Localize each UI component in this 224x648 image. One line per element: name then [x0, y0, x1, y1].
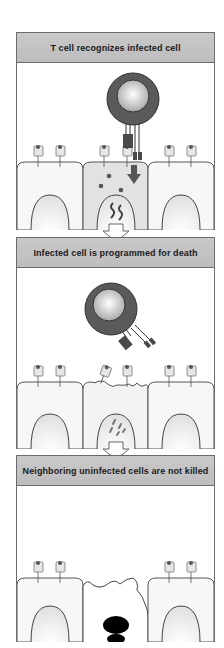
granule [107, 174, 112, 179]
dead-infected-cell [83, 578, 148, 642]
t-cell [107, 73, 159, 160]
panel-outcome: Neighboring uninfected cells are not kil… [16, 455, 215, 642]
panel-recognition: T cell recognizes infected cell [16, 32, 215, 230]
outcome-illustration [17, 486, 214, 642]
recognition-illustration [17, 63, 214, 230]
uninfected-cell-left [17, 578, 83, 642]
uninfected-cell-right [148, 578, 214, 642]
panel-title: T cell recognizes infected cell [17, 33, 214, 63]
programmed-death-illustration [17, 268, 214, 449]
uninfected-cell-right [148, 382, 214, 449]
granule [119, 188, 124, 193]
panel-title: Neighboring uninfected cells are not kil… [17, 456, 214, 486]
infected-cell [83, 162, 148, 230]
uninfected-cell-left [17, 162, 83, 230]
condensed-nucleus [103, 616, 129, 634]
infected-cell-blebbing [83, 381, 148, 449]
uninfected-cell-right [148, 162, 214, 230]
t-cell-receptor [123, 134, 133, 148]
t-cell [85, 283, 156, 350]
granule [99, 184, 104, 189]
panel-title: Infected cell is programmed for death [17, 238, 214, 268]
uninfected-cell-left [17, 382, 83, 449]
panel-programmed-death: Infected cell is programmed for death [16, 237, 215, 449]
t-cell-receptor [118, 335, 133, 350]
